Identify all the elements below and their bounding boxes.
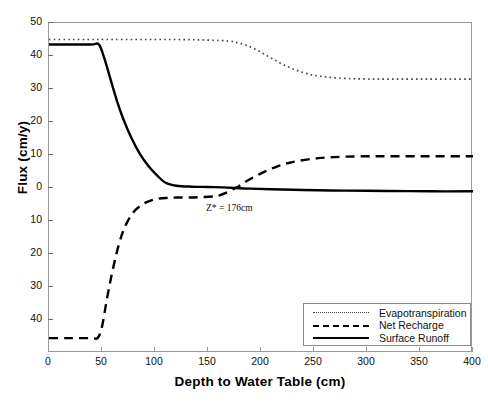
x-tick-mark [48, 347, 49, 352]
legend-label: Net Recharge [379, 320, 444, 331]
x-tick-mark [260, 347, 261, 352]
y-tick-mark [48, 286, 53, 287]
series-layer [49, 39, 473, 338]
x-tick-mark [207, 347, 208, 352]
y-tick-mark [48, 88, 53, 89]
y-tick-label: 20 [12, 115, 42, 125]
y-tick-label: 10 [12, 214, 42, 224]
legend-swatch-dashed [311, 320, 373, 332]
x-tick-label: 0 [28, 356, 68, 367]
x-tick-label: 250 [293, 356, 333, 367]
chart-legend: Evapotranspiration Net Recharge Surface … [303, 303, 471, 346]
y-tick-mark [48, 154, 53, 155]
x-tick-mark [154, 347, 155, 352]
y-tick-label: 0 [12, 181, 42, 191]
legend-label: Evapotranspiration [379, 308, 467, 319]
y-tick-mark [48, 319, 53, 320]
x-tick-label: 300 [346, 356, 386, 367]
x-tick-mark [472, 347, 473, 352]
y-tick-label: 30 [12, 280, 42, 290]
x-tick-label: 100 [134, 356, 174, 367]
y-tick-label: 40 [12, 313, 42, 323]
y-tick-mark [48, 22, 53, 23]
x-tick-mark [101, 347, 102, 352]
y-tick-mark [48, 187, 53, 188]
legend-swatch-dotted [311, 307, 373, 319]
legend-item-net-recharge: Net Recharge [304, 320, 470, 333]
y-tick-label: 20 [12, 247, 42, 257]
legend-label: Surface Runoff [379, 333, 449, 344]
y-tick-mark [48, 253, 53, 254]
x-tick-label: 200 [240, 356, 280, 367]
x-axis-title: Depth to Water Table (cm) [48, 374, 472, 389]
y-tick-label: 10 [12, 148, 42, 158]
annotation-zstar: Z* = 176cm [206, 203, 253, 213]
x-tick-label: 400 [452, 356, 488, 367]
y-tick-label: 40 [12, 49, 42, 59]
series-line-surface-runoff [49, 43, 473, 191]
x-tick-label: 350 [399, 356, 439, 367]
series-line-evapotranspiration [49, 39, 473, 79]
legend-swatch-solid [311, 332, 373, 344]
y-tick-label: 30 [12, 82, 42, 92]
legend-item-surface-runoff: Surface Runoff [304, 332, 470, 345]
x-tick-mark [419, 347, 420, 352]
x-tick-mark [366, 347, 367, 352]
x-tick-label: 150 [187, 356, 227, 367]
legend-item-evapotranspiration: Evapotranspiration [304, 307, 470, 320]
y-tick-mark [48, 55, 53, 56]
figure: Flux (cm/y) 5040302010010203040 05010015… [0, 0, 488, 402]
x-tick-mark [313, 347, 314, 352]
y-tick-mark [48, 121, 53, 122]
y-tick-label: 50 [12, 16, 42, 26]
figure-caption [24, 392, 464, 402]
y-tick-mark [48, 220, 53, 221]
x-tick-label: 50 [81, 356, 121, 367]
